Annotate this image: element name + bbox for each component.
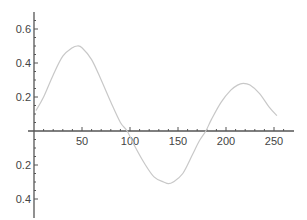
y-tick-label: 0.4 xyxy=(16,57,31,69)
tick-labels: 501001502002500.60.40.20.20.4 xyxy=(16,23,283,205)
tick-marks xyxy=(34,21,284,200)
data-curve xyxy=(36,46,277,184)
y-tick-label: 0.4 xyxy=(16,193,31,205)
axes xyxy=(28,12,294,218)
x-tick-label: 50 xyxy=(76,135,88,147)
x-tick-label: 250 xyxy=(265,135,283,147)
y-tick-label: 0.2 xyxy=(16,159,31,171)
x-tick-label: 200 xyxy=(217,135,235,147)
x-tick-label: 150 xyxy=(169,135,187,147)
y-tick-label: 0.2 xyxy=(16,91,31,103)
y-tick-label: 0.6 xyxy=(16,23,31,35)
line-chart: 501001502002500.60.40.20.20.4 xyxy=(0,0,307,220)
